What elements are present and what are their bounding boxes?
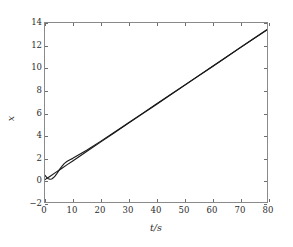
y-tick-mark xyxy=(264,46,267,47)
y-tick-label: 4 xyxy=(37,130,42,140)
x-tick-label: 0 xyxy=(41,205,46,215)
y-tick-mark xyxy=(45,46,48,47)
x-tick-mark xyxy=(241,199,242,202)
y-tick-label: 8 xyxy=(37,85,42,95)
y-tick-label: 0 xyxy=(37,175,42,185)
y-tick-label: 12 xyxy=(31,40,42,50)
y-tick-label: −2 xyxy=(29,198,42,208)
x-tick-label: 60 xyxy=(207,205,218,215)
x-tick-mark xyxy=(157,23,158,26)
y-tick-mark xyxy=(45,136,48,137)
x-tick-mark xyxy=(73,23,74,26)
x-tick-label: 30 xyxy=(123,205,134,215)
x-tick-mark xyxy=(185,23,186,26)
y-tick-mark xyxy=(264,136,267,137)
x-tick-mark xyxy=(213,199,214,202)
x-tick-label: 70 xyxy=(235,205,246,215)
x-tick-mark xyxy=(73,199,74,202)
y-tick-mark xyxy=(264,23,267,24)
y-tick-mark xyxy=(45,204,48,205)
y-tick-mark xyxy=(45,68,48,69)
y-tick-mark xyxy=(264,181,267,182)
y-tick-mark xyxy=(264,114,267,115)
x-tick-mark xyxy=(185,199,186,202)
x-tick-label: 20 xyxy=(95,205,106,215)
x-tick-mark xyxy=(157,199,158,202)
x-tick-mark xyxy=(101,199,102,202)
plot-area xyxy=(44,22,268,203)
y-tick-mark xyxy=(45,159,48,160)
x-tick-label: 10 xyxy=(67,205,78,215)
x-tick-label: 40 xyxy=(151,205,162,215)
x-tick-mark xyxy=(129,199,130,202)
y-tick-mark xyxy=(264,159,267,160)
y-tick-mark xyxy=(264,91,267,92)
y-tick-label: 2 xyxy=(37,153,42,163)
plot-lines xyxy=(45,23,267,202)
y-tick-label: 10 xyxy=(31,62,42,72)
y-tick-mark xyxy=(264,68,267,69)
x-tick-label: 50 xyxy=(179,205,190,215)
x-tick-mark xyxy=(269,23,270,26)
y-tick-mark xyxy=(45,91,48,92)
y-tick-mark xyxy=(45,114,48,115)
x-tick-label: 80 xyxy=(263,205,274,215)
y-tick-label: 6 xyxy=(37,108,42,118)
y-tick-mark xyxy=(264,204,267,205)
x-tick-mark xyxy=(213,23,214,26)
x-tick-mark xyxy=(101,23,102,26)
y-tick-label: 14 xyxy=(31,17,42,27)
x-axis-label: t/s xyxy=(150,222,162,233)
y-tick-mark xyxy=(45,23,48,24)
x-tick-mark xyxy=(269,199,270,202)
chart-screenshot: x t/s 01020304050607080−202468101214 xyxy=(0,0,293,247)
y-axis-label: x xyxy=(5,116,16,121)
x-tick-mark xyxy=(129,23,130,26)
y-tick-mark xyxy=(45,181,48,182)
x-tick-mark xyxy=(241,23,242,26)
x-tick-mark xyxy=(45,199,46,202)
